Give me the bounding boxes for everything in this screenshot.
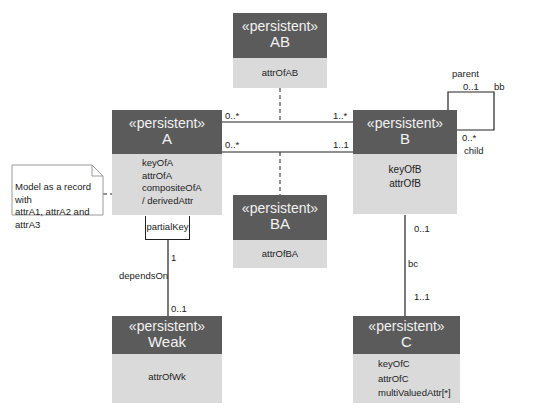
- role-child: child: [464, 145, 484, 156]
- class-b-attributes: keyOfB attrOfB: [353, 154, 457, 214]
- mult-bc-b: 0..1: [414, 223, 430, 234]
- mult-dependson-weak: 0..1: [171, 303, 187, 314]
- stereotype: «persistent»: [233, 201, 327, 216]
- role-parent: parent: [452, 68, 479, 79]
- note[interactable]: Model as a record with attrA1, attrA2 an…: [12, 165, 103, 215]
- class-a-header: «persistent» A: [112, 110, 222, 154]
- note-line-1: Model as a record with: [15, 181, 103, 206]
- attribute: keyOfA: [142, 157, 222, 170]
- class-ab-attributes: attrOfAB: [233, 58, 327, 88]
- attribute: attrOfBA: [233, 248, 327, 261]
- class-a-attributes: keyOfA attrOfA compositeOfA / derivedAtt…: [112, 154, 222, 215]
- class-b-header: «persistent» B: [353, 110, 457, 154]
- class-name: AB: [233, 34, 327, 50]
- attribute: / derivedAttr: [142, 195, 222, 208]
- class-weak[interactable]: «persistent» Weak attrOfWk: [112, 316, 222, 403]
- attribute: keyOfB: [353, 163, 457, 177]
- attribute: attrOfAB: [233, 67, 327, 80]
- class-c-attributes: keyOfC attrOfC multiValuedAttr[*]: [353, 354, 460, 403]
- assoc-bc-name: bc: [408, 258, 418, 269]
- mult-child: 0..*: [462, 132, 476, 143]
- class-name: BA: [233, 216, 327, 232]
- class-name: C: [353, 334, 460, 350]
- assoc-dependson-name: dependsOn: [119, 270, 168, 281]
- stereotype: «persistent»: [112, 116, 222, 131]
- class-weak-attributes: attrOfWk: [112, 354, 222, 403]
- mult-ba-a: 0..*: [225, 139, 239, 150]
- class-name: Weak: [112, 334, 222, 350]
- class-b[interactable]: «persistent» B keyOfB attrOfB: [353, 110, 457, 214]
- class-ba-header: «persistent» BA: [233, 195, 327, 240]
- note-line-2: attrA1, attrA2 and attrA3: [15, 206, 103, 231]
- attribute: attrOfC: [378, 372, 460, 387]
- mult-ab-b: 1..*: [333, 110, 347, 121]
- class-c[interactable]: «persistent» C keyOfC attrOfC multiValue…: [353, 316, 460, 403]
- class-a[interactable]: «persistent» A keyOfA attrOfA compositeO…: [112, 110, 222, 215]
- stereotype: «persistent»: [353, 319, 460, 334]
- stereotype: «persistent»: [233, 19, 327, 34]
- mult-bc-c: 1..1: [414, 291, 430, 302]
- class-weak-header: «persistent» Weak: [112, 316, 222, 354]
- class-name: A: [112, 131, 222, 147]
- mult-ba-b: 1..1: [333, 139, 349, 150]
- class-c-header: «persistent» C: [353, 316, 460, 354]
- attribute: attrOfA: [142, 170, 222, 183]
- mult-ab-a: 0..*: [225, 110, 239, 121]
- assoc-bb-name: bb: [494, 81, 505, 92]
- mult-dependson-a: 1: [171, 252, 176, 263]
- qualifier-partialkey[interactable]: partialKey: [145, 216, 190, 240]
- attribute: multiValuedAttr[*]: [378, 386, 460, 401]
- class-ba-attributes: attrOfBA: [233, 240, 327, 268]
- attribute: attrOfWk: [112, 371, 222, 384]
- mult-parent: 0..1: [463, 81, 479, 92]
- class-name: B: [353, 131, 457, 147]
- attribute: keyOfC: [378, 357, 460, 372]
- attribute: compositeOfA: [142, 182, 222, 195]
- stereotype: «persistent»: [353, 116, 457, 131]
- stereotype: «persistent»: [112, 319, 222, 334]
- class-ba[interactable]: «persistent» BA attrOfBA: [233, 195, 327, 268]
- class-ab[interactable]: «persistent» AB attrOfAB: [233, 13, 327, 88]
- attribute: attrOfB: [353, 177, 457, 191]
- class-ab-header: «persistent» AB: [233, 13, 327, 58]
